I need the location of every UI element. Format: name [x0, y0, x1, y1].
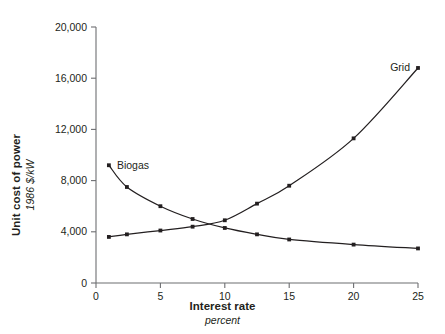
data-point-marker — [416, 247, 420, 251]
x-tick-layer: 0510152025 — [93, 283, 424, 302]
data-point-marker — [287, 184, 291, 188]
data-point-marker — [191, 225, 195, 229]
data-point-marker — [223, 218, 227, 222]
x-tick-label: 15 — [283, 290, 295, 302]
data-point-marker — [107, 235, 111, 239]
data-point-marker — [191, 217, 195, 221]
plot-area: 04,0008,00012,00016,00020,000 0510152025… — [0, 0, 445, 334]
data-point-marker — [125, 185, 129, 189]
axis-layer — [96, 27, 418, 283]
series-label-grid: Grid — [390, 61, 410, 73]
series-label-biogas: Biogas — [117, 159, 149, 171]
x-tick-label: 0 — [93, 290, 99, 302]
series-grid — [107, 66, 420, 239]
data-point-marker — [352, 243, 356, 247]
data-point-marker — [125, 232, 129, 236]
y-tick-label: 16,000 — [55, 72, 87, 84]
y-tick-label: 20,000 — [55, 21, 87, 33]
data-point-marker — [255, 232, 259, 236]
x-tick-label: 25 — [412, 290, 424, 302]
series-line — [109, 68, 418, 237]
data-point-marker — [416, 66, 420, 70]
data-point-marker — [255, 202, 259, 206]
data-point-marker — [352, 136, 356, 140]
series-annotation-layer: BiogasGrid — [117, 61, 410, 170]
series-biogas — [107, 163, 420, 250]
x-tick-label: 5 — [157, 290, 163, 302]
y-tick-label: 8,000 — [61, 174, 87, 186]
data-point-marker — [159, 204, 163, 208]
y-tick-layer: 04,0008,00012,00016,00020,000 — [55, 21, 96, 289]
data-point-marker — [223, 226, 227, 230]
y-tick-label: 0 — [81, 277, 87, 289]
data-point-marker — [159, 229, 163, 233]
y-tick-label: 12,000 — [55, 123, 87, 135]
y-tick-label: 4,000 — [61, 225, 87, 237]
chart-figure: Unit cost of power 1986 $/kW Interest ra… — [0, 0, 445, 334]
series-line — [109, 165, 418, 248]
x-tick-label: 20 — [348, 290, 360, 302]
data-point-marker — [107, 163, 111, 167]
data-point-marker — [287, 238, 291, 242]
series-layer — [107, 66, 420, 250]
x-tick-label: 10 — [219, 290, 231, 302]
